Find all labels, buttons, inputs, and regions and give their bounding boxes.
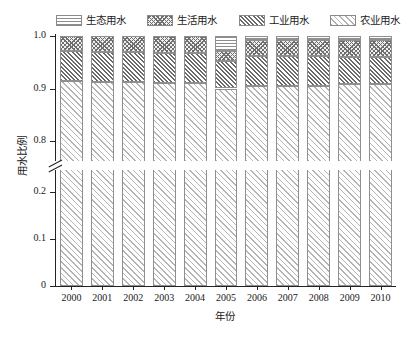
- agr-pattern-swatch-icon: [330, 15, 356, 26]
- bar-segment-industrial: [369, 57, 392, 84]
- bar-segment-industrial: [338, 57, 361, 84]
- x-axis-title: 年份: [175, 308, 275, 323]
- bar-segment-agricultural: [184, 83, 207, 286]
- bar-segment-ecological: [245, 36, 268, 40]
- bar-segment-industrial: [307, 56, 330, 86]
- bar-2001: [91, 34, 114, 286]
- bar-segment-domestic: [215, 51, 238, 61]
- eco-pattern-swatch-icon: [56, 15, 82, 26]
- bar-2004: [184, 34, 207, 286]
- legend-label-ecological: 生态用水: [86, 15, 126, 26]
- legend-item-industrial: 工业用水: [239, 15, 309, 26]
- bar-segment-industrial: [91, 52, 114, 82]
- bar-segment-industrial: [276, 56, 299, 86]
- x-tick-label-2010: 2010: [359, 292, 403, 303]
- bar-segment-domestic: [184, 36, 207, 53]
- bar-segment-industrial: [184, 53, 207, 83]
- y-tick-label: 1.0: [0, 30, 46, 40]
- y-axis-title: 用水比例: [14, 121, 29, 191]
- bar-segment-agricultural: [369, 84, 392, 286]
- bar-segment-industrial: [153, 53, 176, 83]
- bar-2005: [215, 34, 238, 286]
- bar-segment-agricultural: [122, 82, 145, 286]
- bar-segment-agricultural: [153, 83, 176, 286]
- bar-segment-agricultural: [338, 84, 361, 286]
- x-axis-line: [55, 286, 396, 287]
- bar-2006: [245, 34, 268, 286]
- bar-segment-domestic: [91, 36, 114, 52]
- y-tick-label: 0.9: [0, 83, 46, 93]
- bar-2007: [276, 34, 299, 286]
- bar-segment-ecological: [307, 36, 330, 40]
- bar-segment-ecological: [369, 36, 392, 40]
- bar-segment-industrial: [215, 61, 238, 88]
- y-axis-break-band: [48, 161, 398, 170]
- bar-segment-domestic: [307, 40, 330, 56]
- bar-2003: [153, 34, 176, 286]
- bar-segment-agricultural: [245, 86, 268, 286]
- bar-segment-agricultural: [276, 86, 299, 286]
- chart-legend: 生态用水 生活用水 工业用水 农业用水: [56, 12, 400, 28]
- legend-item-agricultural: 农业用水: [330, 15, 400, 26]
- legend-item-domestic: 生活用水: [147, 15, 217, 26]
- bar-segment-industrial: [122, 52, 145, 82]
- bar-segment-domestic: [153, 36, 176, 53]
- bar-segment-domestic: [122, 36, 145, 52]
- bar-segment-ecological: [215, 36, 238, 51]
- y-tick-label: 0: [0, 280, 46, 290]
- bar-segment-agricultural: [91, 82, 114, 286]
- bar-2010: [369, 34, 392, 286]
- bar-2008: [307, 34, 330, 286]
- dom-pattern-swatch-icon: [147, 15, 173, 26]
- bar-2009: [338, 34, 361, 286]
- bar-segment-domestic: [369, 40, 392, 57]
- legend-label-domestic: 生活用水: [177, 15, 217, 26]
- legend-label-industrial: 工业用水: [269, 15, 309, 26]
- bar-segment-industrial: [60, 51, 83, 80]
- bar-segment-domestic: [276, 40, 299, 56]
- bar-segment-domestic: [60, 36, 83, 51]
- chart-canvas: 生态用水 生活用水 工业用水 农业用水 1.00.90.80.20.10 200…: [0, 0, 410, 341]
- y-tick-label: 0.1: [0, 233, 46, 243]
- ind-pattern-swatch-icon: [239, 15, 265, 26]
- bar-segment-agricultural: [60, 81, 83, 286]
- plot-area: [56, 34, 396, 286]
- bar-segment-agricultural: [215, 89, 238, 287]
- bar-segment-ecological: [338, 36, 361, 40]
- bar-segment-domestic: [245, 40, 268, 56]
- bar-segment-domestic: [338, 40, 361, 57]
- legend-label-agricultural: 农业用水: [360, 15, 400, 26]
- bar-2002: [122, 34, 145, 286]
- bar-2000: [60, 34, 83, 286]
- bar-segment-agricultural: [307, 86, 330, 286]
- bar-segment-industrial: [245, 56, 268, 86]
- legend-item-ecological: 生态用水: [56, 15, 126, 26]
- bar-segment-ecological: [276, 36, 299, 40]
